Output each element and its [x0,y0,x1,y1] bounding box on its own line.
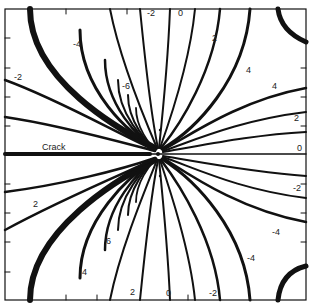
contour-label: 2 [130,288,135,297]
contour-plot [0,0,311,307]
contour-label: 2 [294,114,299,123]
contour-label: 0 [166,289,171,298]
contour-label: 0 [178,9,183,18]
contour-label: 6 [106,237,111,246]
contour-label: 2 [33,200,38,209]
contour-figure: Crack -2 0 2 -4 4 -2 4 -6 2 0 -2 2 -4 6 … [0,0,311,307]
contour-label: -4 [73,40,81,49]
contour-label: -4 [247,254,255,263]
contour-label: -2 [293,184,301,193]
contour-label: 0 [297,144,302,153]
contour-label: -2 [147,9,155,18]
contour-label: -6 [122,82,130,91]
contour-label: -2 [209,289,217,298]
contour-label: -4 [272,228,280,237]
contour-label: -2 [14,73,22,82]
crack-label: Crack [42,143,66,152]
contour-label: 4 [82,268,87,277]
contour-label: 4 [246,66,251,75]
contour-label: 4 [272,82,277,91]
contour-label: 2 [212,34,217,43]
